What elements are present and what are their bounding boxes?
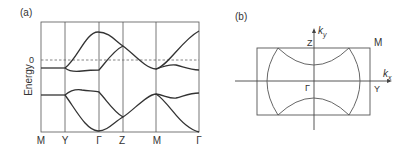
band-lower-b — [65, 95, 123, 131]
ky-arrow-icon — [312, 28, 316, 33]
figure: (a) 0 Energy M — [0, 0, 405, 152]
zero-tick: 0 — [29, 55, 34, 65]
arc-bottom — [278, 98, 349, 115]
arc-left — [267, 48, 278, 115]
ky-label: ky — [318, 25, 327, 39]
x-tick-Z: Z — [119, 135, 125, 146]
panel-a-label: (a) — [20, 7, 32, 18]
band-lower-c — [156, 94, 199, 132]
x-tick-Gamma1: Γ — [96, 135, 102, 146]
point-Y: Y — [374, 84, 380, 94]
fermi-surface — [267, 48, 360, 115]
x-tick-Y: Y — [62, 135, 69, 146]
point-Z: Z — [307, 38, 313, 48]
y-axis-label: Energy — [23, 64, 34, 96]
brillouin-zone — [257, 48, 370, 115]
band-lower-a — [65, 90, 199, 117]
panel-b: (b) ky Z M kx Y Γ — [235, 11, 392, 130]
x-tick-M1: M — [37, 135, 45, 146]
arc-right — [349, 48, 360, 115]
panel-b-label: (b) — [235, 11, 247, 22]
point-M: M — [374, 37, 382, 48]
x-tick-Gamma2: Γ — [196, 135, 202, 146]
band-upper-1 — [65, 31, 199, 69]
kx-label: kx — [383, 68, 392, 81]
panel-a: (a) 0 Energy M — [20, 7, 202, 146]
point-Gamma: Γ — [305, 83, 310, 93]
x-tick-M2: M — [153, 135, 161, 146]
arc-top — [278, 48, 349, 65]
